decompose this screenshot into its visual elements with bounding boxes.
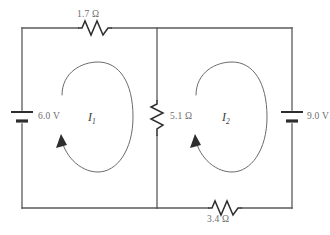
mesh-loop-1-path (61, 62, 133, 172)
top-resistor-symbol (78, 21, 112, 35)
top-resistor-label: 1.7 Ω (77, 9, 99, 19)
mesh-current-2-subscript: 2 (226, 117, 230, 126)
mesh-current-2-label: I2 (222, 110, 230, 126)
mesh-current-1-subscript: 1 (92, 117, 96, 126)
middle-resistor-label: 5.1 Ω (170, 111, 192, 121)
middle-resistor-symbol (151, 100, 163, 136)
mesh-current-1-label: I1 (88, 110, 96, 126)
circuit-diagram: 1.7 Ω 6.0 V 5.1 Ω 9.0 V 3.4 Ω I1 I2 (0, 0, 330, 235)
mesh-loop-1-arrowhead (56, 134, 67, 148)
right-battery-label: 9.0 V (307, 111, 329, 121)
bottom-resistor-symbol (208, 201, 242, 215)
bottom-resistor-label: 3.4 Ω (207, 214, 229, 224)
mesh-loop-2-path (195, 62, 267, 172)
mesh-loop-2-arrowhead (190, 134, 201, 148)
left-battery-label: 6.0 V (38, 111, 60, 121)
